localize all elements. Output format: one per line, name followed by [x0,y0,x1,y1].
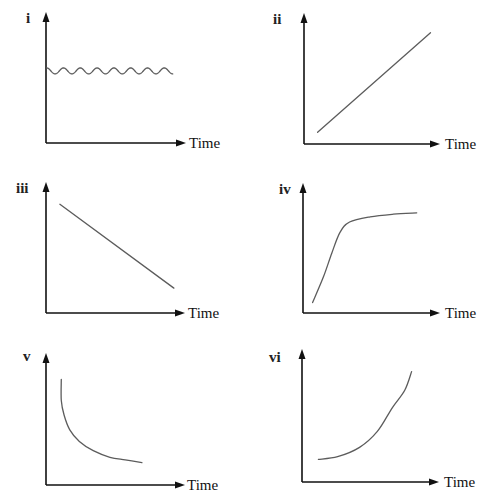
panel-iii: iii Time [16,180,219,321]
x-axis-label: Time [187,477,218,493]
panel-label: ii [273,11,281,27]
curve-line [318,33,431,133]
curve-line [60,204,174,288]
y-axis-arrow-icon [301,13,308,23]
panel-i: i Time [26,10,220,151]
panel-label: vi [269,349,281,365]
y-axis-arrow-icon [299,349,306,359]
panel-iv: iv Time [279,181,476,321]
y-axis-arrow-icon [43,12,50,22]
panel-label: i [26,10,30,26]
panel-ii: ii Time [273,11,476,152]
x-axis-label: Time [444,474,475,490]
panel-v: v Time [23,348,218,493]
curve-line [47,68,173,74]
x-axis-label: Time [445,136,476,152]
x-axis-arrow-icon [430,310,440,317]
x-axis-arrow-icon [175,482,185,489]
x-axis-arrow-icon [176,140,186,147]
x-axis-arrow-icon [430,141,440,148]
panel-label: iii [16,180,29,196]
y-axis-arrow-icon [300,183,307,193]
panel-label: v [23,348,31,364]
panel-label: iv [279,181,291,197]
x-axis-arrow-icon [429,479,439,486]
x-axis-label: Time [445,305,476,321]
y-axis-arrow-icon [43,182,50,192]
curve-line [313,213,417,303]
y-axis-arrow-icon [43,353,50,363]
x-axis-arrow-icon [175,310,185,317]
panel-vi: vi Time [269,349,475,490]
x-axis-label: Time [188,305,219,321]
curve-line [318,372,411,460]
curve-line [61,379,142,462]
graph-grid: i Time ii Time iii Time iv Time [0,0,487,500]
x-axis-label: Time [189,135,220,151]
